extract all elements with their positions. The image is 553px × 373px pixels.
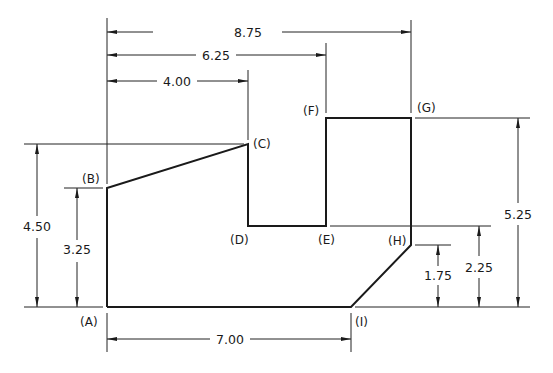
label-g: (G): [417, 101, 436, 115]
label-a: (A): [80, 315, 98, 329]
dimension-2-25: 2.25: [465, 226, 493, 307]
dimension-4-50: 4.50: [23, 144, 51, 307]
dimension-7-00: 7.00: [107, 332, 351, 347]
svg-text:5.25: 5.25: [504, 207, 532, 222]
technical-drawing: 8.75 6.25 4.00 7.00 4.50 3.25 1.75: [0, 0, 553, 373]
svg-text:4.00: 4.00: [163, 74, 191, 89]
dimension-6-25: 6.25: [107, 48, 326, 63]
dimension-8-75: 8.75: [107, 25, 411, 40]
label-f: (F): [303, 104, 319, 118]
svg-text:1.75: 1.75: [424, 268, 452, 283]
extension-lines: [24, 18, 530, 352]
svg-text:2.25: 2.25: [465, 260, 493, 275]
svg-text:8.75: 8.75: [234, 25, 262, 40]
label-i: (I): [355, 315, 368, 329]
svg-text:3.25: 3.25: [63, 242, 91, 257]
dimension-3-25: 3.25: [63, 188, 91, 307]
svg-text:6.25: 6.25: [202, 48, 230, 63]
label-e: (E): [318, 233, 335, 247]
label-d: (D): [230, 233, 249, 247]
label-c: (C): [253, 137, 271, 151]
svg-text:7.00: 7.00: [216, 332, 244, 347]
dimension-4-00: 4.00: [107, 74, 248, 89]
label-h: (H): [388, 234, 406, 248]
dimension-5-25: 5.25: [504, 118, 532, 307]
label-b: (B): [82, 172, 100, 186]
dimension-1-75: 1.75: [424, 245, 452, 307]
svg-text:4.50: 4.50: [23, 219, 51, 234]
point-labels: (A) (B) (C) (D) (E) (F) (G) (H) (I): [80, 101, 436, 329]
